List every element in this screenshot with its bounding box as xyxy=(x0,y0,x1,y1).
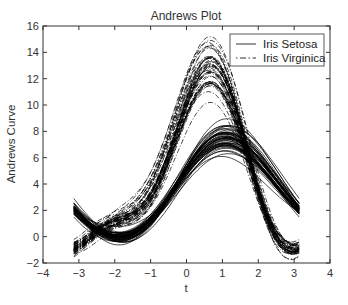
y-tick-label: 16 xyxy=(27,20,39,32)
virginica-curve xyxy=(74,43,299,260)
y-tick-label: 10 xyxy=(27,99,39,111)
andrews-plot-chart: Andrews Plot −4−3−2−101234 −202468101214… xyxy=(0,0,348,305)
x-tick-label: 4 xyxy=(327,267,333,279)
y-tick-label: 6 xyxy=(33,152,39,164)
legend: Iris Setosa Iris Virginica xyxy=(230,34,326,66)
x-tick-label: 2 xyxy=(255,267,261,279)
x-tick-label: 1 xyxy=(219,267,225,279)
y-tick-label: 0 xyxy=(33,231,39,243)
y-tick-label: 14 xyxy=(27,46,39,58)
plot-curves xyxy=(74,37,299,260)
y-tick-label: −2 xyxy=(26,257,39,269)
x-tick-label: 0 xyxy=(183,267,189,279)
chart-title: Andrews Plot xyxy=(151,9,222,23)
x-tick-label: 3 xyxy=(291,267,297,279)
y-tick-label: 8 xyxy=(33,125,39,137)
legend-label-virginica: Iris Virginica xyxy=(263,52,326,64)
y-tick-label: 12 xyxy=(27,73,39,85)
legend-label-setosa: Iris Setosa xyxy=(263,38,318,50)
x-tick-label: −2 xyxy=(108,267,121,279)
y-axis-label: Andrews Curve xyxy=(5,105,17,184)
y-tick-label: 4 xyxy=(33,178,39,190)
x-tick-label: −3 xyxy=(73,267,86,279)
y-tick-label: 2 xyxy=(33,204,39,216)
x-tick-label: −1 xyxy=(144,267,157,279)
x-axis-label: t xyxy=(184,282,188,294)
